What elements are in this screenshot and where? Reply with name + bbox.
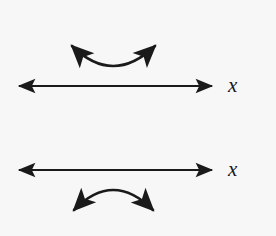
background [0, 0, 276, 236]
diagram-canvas [0, 0, 276, 236]
x-axis-bottom-label: x [228, 159, 237, 180]
figure-root: x x [0, 0, 276, 236]
x-axis-top-label: x [228, 75, 237, 96]
